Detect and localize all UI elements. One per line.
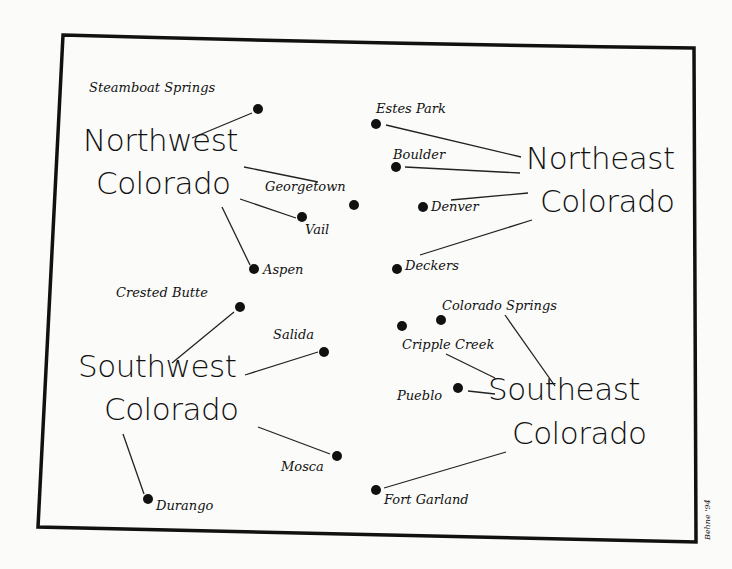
town-fort-garland: Fort Garland (384, 492, 469, 507)
region-southeast-line1: Southeast (488, 371, 640, 407)
region-southwest-line2: Colorado (104, 391, 239, 427)
town-colorado-springs: Colorado Springs (442, 298, 557, 313)
town-steamboat-springs: Steamboat Springs (89, 80, 215, 95)
region-northeast-line2: Colorado (540, 183, 675, 219)
town-boulder: Boulder (393, 147, 445, 162)
artist-signature: Behne '94 (703, 499, 712, 540)
town-denver: Denver (431, 199, 479, 214)
region-northwest-line1: Northwest (83, 122, 238, 158)
town-crested-butte: Crested Butte (116, 285, 208, 300)
region-northeast-line1: Northeast (526, 140, 675, 176)
town-estes-park: Estes Park (376, 101, 446, 116)
town-salida: Salida (273, 327, 314, 342)
town-aspen: Aspen (263, 262, 303, 277)
town-mosca: Mosca (281, 459, 324, 474)
town-georgetown: Georgetown (265, 179, 346, 194)
town-cripple-creek: Cripple Creek (402, 337, 494, 352)
town-pueblo: Pueblo (397, 388, 442, 403)
region-southwest-line1: Southwest (78, 348, 236, 384)
region-southeast-line2: Colorado (512, 415, 647, 451)
town-vail: Vail (305, 222, 329, 237)
town-durango: Durango (156, 498, 213, 513)
region-northwest-line2: Colorado (96, 165, 231, 201)
town-deckers: Deckers (405, 258, 459, 273)
